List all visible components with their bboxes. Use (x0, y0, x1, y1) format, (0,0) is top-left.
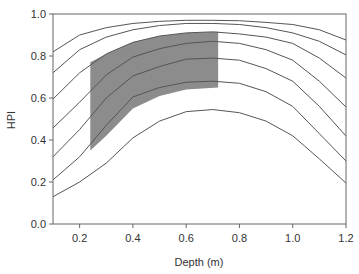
x-axis-title: Depth (m) (175, 256, 224, 268)
x-tick-label: 1.0 (285, 232, 300, 244)
y-tick-label: 0.2 (31, 176, 46, 188)
y-tick-label: 0.8 (31, 50, 46, 62)
shaded-band (90, 32, 218, 151)
x-tick-label: 0.8 (232, 232, 247, 244)
x-tick-label: 1.2 (338, 232, 353, 244)
y-tick-label: 0.4 (31, 134, 46, 146)
x-tick-label: 0.6 (179, 232, 194, 244)
x-tick-label: 0.4 (125, 232, 140, 244)
shaded-range (90, 32, 218, 151)
hpi-depth-chart: 0.20.40.60.81.01.20.00.20.40.60.81.0 Dep… (0, 0, 359, 274)
y-tick-label: 0.0 (31, 218, 46, 230)
y-tick-label: 0.6 (31, 92, 46, 104)
x-tick-label: 0.2 (72, 232, 87, 244)
y-tick-label: 1.0 (31, 8, 46, 20)
y-axis-title: HPI (5, 111, 17, 129)
